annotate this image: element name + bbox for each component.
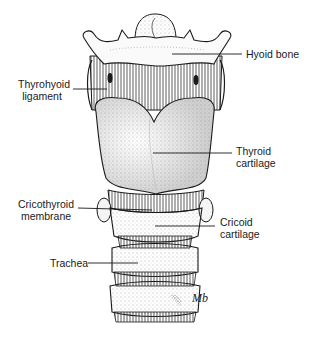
label-thyrohyoid-ligament-line2: ligament xyxy=(14,90,70,102)
label-trachea-line1: Trachea xyxy=(50,257,88,269)
label-trachea: Trachea xyxy=(50,257,88,269)
label-cricothyroid-membrane: Cricothyroid membrane xyxy=(16,198,76,222)
label-cricoid-cartilage-line2: cartilage xyxy=(220,228,260,240)
label-thyroid-cartilage: Thyroid cartilage xyxy=(236,145,276,169)
label-hyoid-bone-line1: Hyoid bone xyxy=(246,48,299,60)
label-thyroid-cartilage-line2: cartilage xyxy=(236,157,276,169)
label-thyrohyoid-ligament: Thyrohyoid ligament xyxy=(14,78,70,102)
label-thyrohyoid-ligament-line1: Thyrohyoid xyxy=(14,78,70,90)
label-thyroid-cartilage-line1: Thyroid xyxy=(236,145,276,157)
artist-signature: Mb xyxy=(191,291,208,305)
thyroid-cartilage xyxy=(95,98,214,194)
label-hyoid-bone: Hyoid bone xyxy=(246,48,299,60)
label-cricoid-cartilage: Cricoid cartilage xyxy=(220,216,260,240)
trachea xyxy=(110,236,200,322)
label-cricothyroid-membrane-line1: Cricothyroid xyxy=(16,198,76,210)
label-cricoid-cartilage-line1: Cricoid xyxy=(220,216,260,228)
label-cricothyroid-membrane-line2: membrane xyxy=(16,210,76,222)
